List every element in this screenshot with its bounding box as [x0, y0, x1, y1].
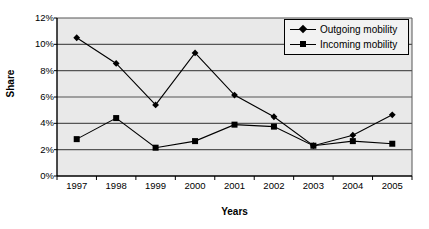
data-point-marker[interactable] — [113, 115, 119, 121]
legend-marker-diamond-icon — [290, 24, 316, 36]
legend-item-incoming[interactable]: Incoming mobility — [285, 37, 408, 52]
x-tick-label-1999: 1999 — [136, 180, 175, 191]
chart-legend: Outgoing mobility Incoming mobility — [284, 19, 409, 55]
data-point-marker[interactable] — [153, 145, 159, 151]
chart-container: Share 0%2%4%6%8%10%12% 19971998199920002… — [0, 0, 429, 229]
x-tick-label-1998: 1998 — [96, 180, 135, 191]
x-tick-label-2004: 2004 — [333, 180, 372, 191]
data-point-marker[interactable] — [232, 122, 238, 128]
x-tick-label-2001: 2001 — [215, 180, 254, 191]
x-tick-label-2002: 2002 — [254, 180, 293, 191]
legend-label-outgoing: Outgoing mobility — [316, 24, 397, 35]
x-tick-label-2000: 2000 — [175, 180, 214, 191]
legend-marker-square-icon — [290, 39, 316, 51]
legend-label-incoming: Incoming mobility — [316, 39, 397, 50]
data-point-marker[interactable] — [389, 141, 395, 147]
x-tick-label-1997: 1997 — [57, 180, 96, 191]
data-point-marker[interactable] — [271, 124, 277, 130]
data-point-marker[interactable] — [74, 136, 80, 142]
data-point-marker[interactable] — [350, 138, 356, 144]
data-point-marker[interactable] — [310, 143, 316, 149]
x-tick-label-2005: 2005 — [373, 180, 412, 191]
legend-item-outgoing[interactable]: Outgoing mobility — [285, 22, 408, 37]
x-tick-label-2003: 2003 — [294, 180, 333, 191]
x-axis-title: Years — [57, 206, 412, 217]
data-point-marker[interactable] — [192, 138, 198, 144]
